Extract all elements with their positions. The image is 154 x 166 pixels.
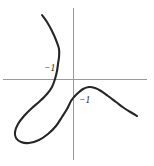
y-intercept-label: −1 xyxy=(79,96,90,106)
x-intercept-label: −1 xyxy=(44,64,55,74)
plot-canvas xyxy=(0,0,154,166)
math-figure: −1 −1 xyxy=(0,0,154,166)
